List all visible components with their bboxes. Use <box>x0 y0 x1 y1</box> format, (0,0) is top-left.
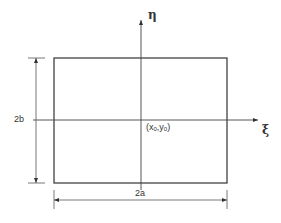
width-dimension-label: 2a <box>135 189 145 198</box>
eta-axis-label: η <box>148 9 157 21</box>
xi-axis-label: ξ <box>262 124 269 136</box>
rectangle-plate <box>54 58 227 183</box>
center-point-label: (x0,y0) <box>146 123 170 132</box>
height-dimension-label: 2b <box>14 115 24 124</box>
paren-close: ) <box>167 122 170 132</box>
diagram-canvas: η ξ 2b 2a (x0,y0) <box>0 0 281 223</box>
